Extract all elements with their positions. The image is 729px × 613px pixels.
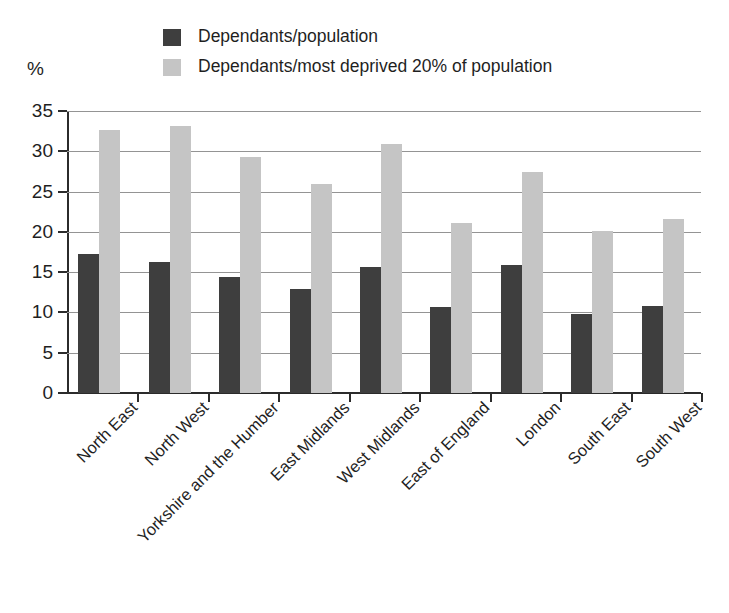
bar [642,306,663,393]
bar [430,307,451,393]
x-axis-category-label: South East [564,398,635,469]
bar [592,231,613,393]
legend-item-dependants-most-deprived: Dependants/most deprived 20% of populati… [163,52,552,82]
bar [149,262,170,393]
bar [571,314,592,393]
y-axis-tick [58,311,67,313]
x-axis-category-label: Yorkshire and the Humber [134,398,283,547]
y-axis-tick-label: 10 [32,301,53,323]
y-axis-tick [58,150,67,152]
y-axis-unit-label: % [27,58,44,80]
x-axis-category-label: London [512,398,564,450]
chart-legend: Dependants/population Dependants/most de… [163,22,552,82]
bar [663,219,684,393]
bar [170,126,191,393]
y-axis-tick [58,352,67,354]
y-axis-tick-label: 0 [42,382,53,404]
y-axis-tick-label: 35 [32,100,53,122]
bar [78,254,99,393]
bar [99,130,120,393]
x-axis-category-label: North West [141,398,213,470]
x-axis-category-labels: North EastNorth WestYorkshire and the Hu… [67,398,729,598]
y-axis-tick [58,271,67,273]
y-axis-tick-label: 5 [42,342,53,364]
x-axis-category-label: North East [73,398,142,467]
bar [219,277,240,393]
plot-area: 05101520253035 [67,111,701,393]
y-axis-tick [58,231,67,233]
legend-swatch-dark [163,29,181,46]
y-axis-tick-label: 30 [32,140,53,162]
y-axis-tick-label: 25 [32,181,53,203]
legend-item-dependants-population: Dependants/population [163,22,552,52]
legend-label-dark: Dependants/population [198,28,378,46]
y-axis-tick [58,191,67,193]
bar [290,289,311,393]
bar-chart: Dependants/population Dependants/most de… [0,0,729,613]
y-axis-tick-label: 15 [32,261,53,283]
bar [240,157,261,393]
bar [360,267,381,393]
bar [501,265,522,393]
x-axis-category-label: South West [632,398,706,472]
bars-layer [67,111,701,393]
legend-swatch-light [163,59,181,76]
bar [311,184,332,393]
y-axis-tick [58,110,67,112]
legend-label-light: Dependants/most deprived 20% of populati… [198,58,552,76]
y-axis-tick [58,392,67,394]
bar [522,172,543,393]
bar [451,223,472,393]
y-axis-tick-label: 20 [32,221,53,243]
bar [381,144,402,393]
